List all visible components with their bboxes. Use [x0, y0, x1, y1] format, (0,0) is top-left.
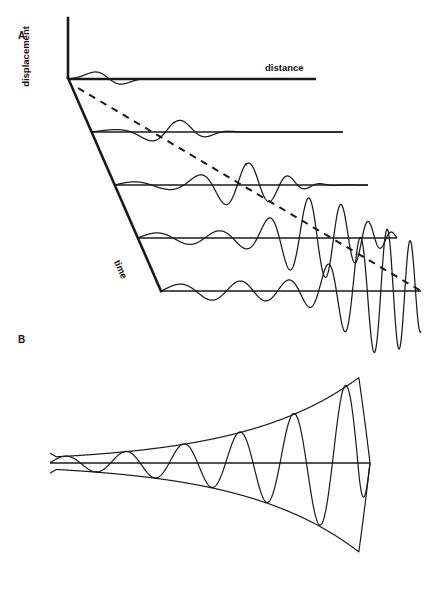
panel-a	[68, 18, 421, 352]
trace-waveform	[91, 120, 343, 141]
panel-b	[50, 378, 370, 552]
panel-b-lower-envelope	[50, 463, 370, 552]
figure-svg	[0, 0, 439, 593]
panel-b-upper-envelope	[50, 378, 370, 463]
trace-waveforms	[68, 72, 421, 352]
figure-container: A B displacement distance time	[0, 0, 439, 593]
trace-baselines	[68, 79, 421, 291]
panel-b-oscillation	[50, 385, 370, 525]
group-velocity-dashed-line	[78, 88, 421, 291]
trace-waveform	[114, 163, 368, 205]
